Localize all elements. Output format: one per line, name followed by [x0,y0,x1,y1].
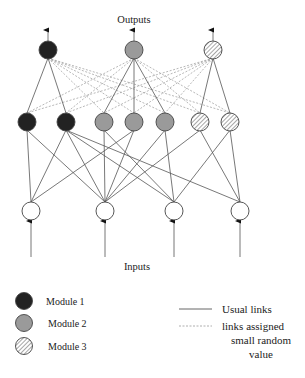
inputs-label: Inputs [124,261,150,272]
hidden-layer [18,113,239,131]
legend-module-3-swatch [16,338,33,355]
legend-random-label-2: small random [231,334,292,346]
hidden-node-module-1 [18,113,36,131]
random-link [134,58,200,113]
input-node [231,202,249,220]
random-link [48,58,134,113]
random-link [104,58,213,113]
output-arrows [48,30,213,41]
usual-link [104,130,105,202]
legend-usual-label: Usual links [222,303,272,315]
hidden-node-module-1 [57,113,75,131]
usual-link [27,130,31,202]
module-legend: Module 1 Module 2 Module 3 [16,293,87,355]
legend-module-2-label: Module 2 [48,318,87,329]
legend-module-3-label: Module 3 [48,341,87,352]
hidden-node-module-2 [125,113,143,131]
usual-link [200,130,240,202]
output-node-module-3 [204,41,222,59]
usual-link [174,130,230,202]
usual-link [31,130,66,202]
random-link [48,58,200,113]
output-node-module-2 [125,41,143,59]
usual-link [200,58,213,113]
legend-module-2-swatch [16,315,33,332]
output-layer [39,41,222,59]
legend-random-label-3: value [249,348,273,360]
random-link [165,58,213,113]
random-link [27,58,134,113]
hidden-node-module-3 [191,113,209,131]
usual-link [66,130,105,202]
usual-link [230,130,240,202]
input-node [165,202,183,220]
output-node-module-1 [39,41,57,59]
legend-random-label-1: links assigned [222,320,285,332]
legend-module-1-swatch [16,293,33,310]
usual-links-hidden-input [27,130,240,202]
usual-link [27,130,105,202]
input-node [22,202,40,220]
random-link [27,58,213,113]
random-link [48,58,165,113]
usual-link [104,58,134,113]
link-legend: Usual links links assigned small random … [179,303,292,360]
hidden-node-module-2 [95,113,113,131]
hidden-node-module-2 [156,113,174,131]
legend-module-1-label: Module 1 [46,296,85,307]
hidden-node-module-3 [221,113,239,131]
input-arrows [31,221,240,257]
input-layer [22,202,249,220]
usual-link [165,130,174,202]
usual-link [27,58,48,113]
random-link [134,58,213,113]
usual-links-output-hidden [27,58,230,113]
random-links-group [27,58,230,113]
modular-network-diagram: Outputs Inputs Module 1 Module 2 Module … [0,0,305,378]
outputs-label: Outputs [117,14,150,25]
input-node [96,202,114,220]
usual-link [48,58,66,113]
